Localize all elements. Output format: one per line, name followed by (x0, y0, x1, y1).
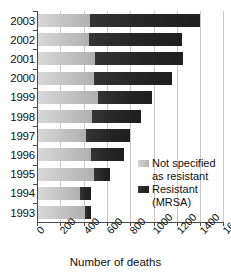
y-axis-label-1995: 1995 (10, 168, 35, 180)
bar-segment-resistant (80, 187, 91, 200)
legend-item-not-specified: Not specified as resistant (138, 157, 230, 182)
bar-segment-not-specified (37, 187, 80, 200)
legend-label-resistant-line1: Resistant (152, 183, 230, 196)
y-axis-label-1993: 1993 (10, 207, 35, 219)
bar-segment-not-specified (37, 33, 89, 46)
x-axis-title: Number of deaths (0, 256, 231, 268)
x-axis-tick-label-0: 0 (34, 224, 47, 236)
bar-segment-resistant (98, 91, 153, 104)
y-axis-tick (33, 165, 37, 166)
y-axis-label-2001: 2001 (10, 53, 35, 65)
y-axis-tick (33, 107, 37, 108)
bar-segment-resistant (89, 33, 182, 46)
y-axis-label-2000: 2000 (10, 72, 35, 84)
y-axis-tick (33, 203, 37, 204)
y-axis-label-2002: 2002 (10, 34, 35, 46)
legend-item-resistant: Resistant (MRSA) (138, 183, 230, 208)
y-axis-tick (33, 126, 37, 127)
y-axis-label-1998: 1998 (10, 111, 35, 123)
y-axis-tick (33, 11, 37, 12)
bar-segment-resistant (91, 148, 124, 161)
y-axis-label-2003: 2003 (10, 15, 35, 27)
y-axis-label-1996: 1996 (10, 149, 35, 161)
bar-segment-not-specified (37, 91, 98, 104)
y-axis-tick (33, 30, 37, 31)
bar-segment-resistant (92, 110, 141, 123)
y-axis-tick (33, 49, 37, 50)
y-axis-tick (33, 184, 37, 185)
bar-segment-resistant (86, 129, 130, 142)
light-gray-swatch-icon (138, 160, 149, 167)
bar-segment-resistant (94, 72, 172, 85)
bar-segment-not-specified (37, 52, 95, 65)
bar-segment-resistant (94, 168, 110, 181)
legend-label-not-specified-line2: as resistant (152, 170, 230, 183)
bar-segment-resistant (95, 52, 183, 65)
legend-label-not-specified-line1: Not specified (152, 157, 230, 170)
legend-label-resistant-line2: (MRSA) (152, 196, 230, 209)
y-axis-label-1997: 1997 (10, 130, 35, 142)
bar-segment-not-specified (37, 14, 90, 27)
bar-chart: 2003200220012000199919981997199619951994… (0, 0, 231, 275)
y-axis-line (37, 11, 38, 222)
bar-segment-not-specified (37, 72, 94, 85)
y-axis-tick (33, 88, 37, 89)
y-axis-label-1994: 1994 (10, 187, 35, 199)
bar-segment-resistant (90, 14, 200, 27)
bar-segment-not-specified (37, 110, 92, 123)
bar-segment-not-specified (37, 148, 91, 161)
bar-segment-not-specified (37, 129, 86, 142)
y-axis-tick (33, 69, 37, 70)
chart-legend: Not specified as resistant Resistant (MR… (138, 157, 230, 209)
bar-segment-not-specified (37, 206, 85, 219)
y-axis-label-1999: 1999 (10, 91, 35, 103)
dark-swatch-icon (138, 186, 149, 193)
bar-segment-not-specified (37, 168, 94, 181)
y-axis-tick (33, 145, 37, 146)
